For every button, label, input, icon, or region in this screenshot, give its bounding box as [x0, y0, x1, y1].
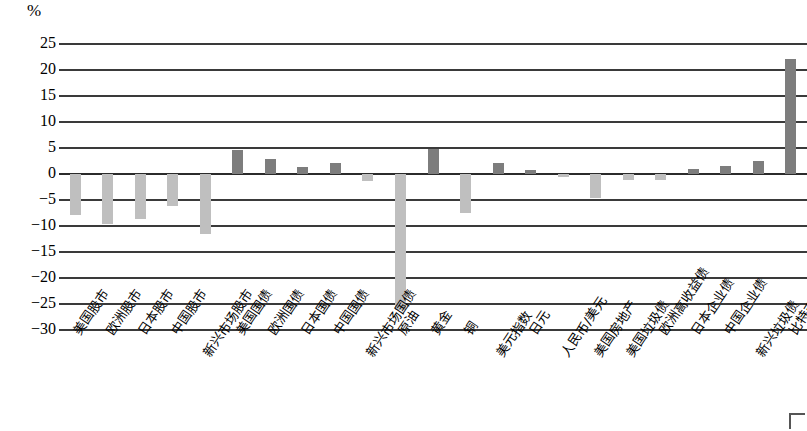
bar	[102, 174, 113, 224]
bar	[688, 169, 699, 174]
bar	[753, 161, 764, 174]
x-axis-tick-labels: 美国股市欧洲股市日本股市中国股市新兴市场股市美国国债欧洲国债日本国债中国国债新兴…	[59, 330, 807, 431]
bar	[297, 167, 308, 174]
bar	[428, 149, 439, 174]
bar	[525, 170, 536, 174]
gridline-neg10	[59, 225, 807, 227]
y-tick-label: 0	[4, 165, 56, 181]
gridline-25	[59, 43, 807, 45]
bar	[785, 59, 796, 174]
y-tick-label: 5	[4, 139, 56, 155]
bar	[135, 174, 146, 219]
y-tick-label: −20	[4, 269, 56, 285]
y-tick-label: −30	[4, 321, 56, 337]
page-corner-mark	[789, 413, 805, 429]
bar	[362, 174, 373, 181]
gridline-15	[59, 95, 807, 97]
y-tick-label: −5	[4, 191, 56, 207]
y-tick-label: 20	[4, 61, 56, 77]
bar	[330, 163, 341, 174]
y-tick-label: 15	[4, 87, 56, 103]
y-tick-label: −15	[4, 243, 56, 259]
bar	[655, 174, 666, 180]
bar	[460, 174, 471, 213]
bar	[623, 174, 634, 180]
y-axis-unit-label: %	[27, 2, 41, 19]
y-tick-label: −25	[4, 295, 56, 311]
bar	[200, 174, 211, 234]
bar	[558, 174, 569, 177]
y-tick-label: 10	[4, 113, 56, 129]
bar	[590, 174, 601, 198]
gridline-10	[59, 121, 807, 123]
y-tick-label: 25	[4, 35, 56, 51]
bar	[167, 174, 178, 206]
gridline-20	[59, 69, 807, 71]
y-axis-tick-labels: 2520151050−5−10−15−20−25−30	[0, 44, 56, 330]
bar	[493, 163, 504, 174]
bar	[232, 150, 243, 174]
bar	[265, 159, 276, 174]
gridline-neg25	[59, 303, 807, 305]
bar	[70, 174, 81, 215]
y-tick-label: −10	[4, 217, 56, 233]
gridline-neg15	[59, 251, 807, 253]
bar-chart: % 2520151050−5−10−15−20−25−30 美国股市欧洲股市日本…	[0, 0, 807, 431]
bar	[720, 166, 731, 174]
